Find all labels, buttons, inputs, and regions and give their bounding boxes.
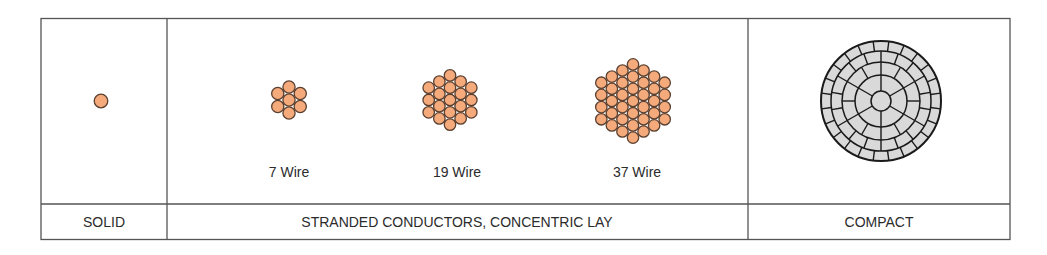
wire-strand-icon [606,83,617,94]
wire-strand-icon [294,100,306,112]
wire-strand-icon [627,108,638,119]
wire-strand-icon [627,132,638,143]
conductor-types-diagram: 7 Wire 19 Wire 37 Wire SOLID STRANDED CO… [0,0,1047,255]
wire-strand-icon [659,114,670,125]
wire-strand-icon [596,89,607,100]
wire-strand-icon [283,94,295,106]
wire-strand-icon [434,100,446,112]
seven-wire-label: 7 Wire [269,164,310,180]
wire-strand-icon [617,126,628,137]
wire-strand-icon [606,71,617,82]
wire-strand-icon [455,113,467,125]
wire-strand-icon [596,114,607,125]
wire-strand-icon [423,107,435,119]
nineteen-wire-strand-icon [423,70,477,131]
wire-strand-icon [444,94,456,106]
wire-strand-icon [272,87,284,99]
wire-strand-icon [455,100,467,112]
wire-strand-icon [596,77,607,88]
wire-strand-icon [638,77,649,88]
wire-strand-icon [659,89,670,100]
wire-strand-icon [444,82,456,94]
wire-strand-icon [617,89,628,100]
wire-strand-icon [617,65,628,76]
compact-conductor-icon [821,41,941,161]
wire-strand-icon [606,120,617,131]
wire-strand-icon [659,101,670,112]
wire-strand-icon [638,65,649,76]
wire-strand-icon [648,83,659,94]
wire-strand-icon [627,71,638,82]
wire-strand-icon [659,77,670,88]
wire-strand-icon [434,76,446,88]
wire-strand-icon [617,101,628,112]
wire-strand-icon [434,88,446,100]
wire-strand-icon [444,119,456,131]
stranded-footer-label: STRANDED CONDUCTORS, CONCENTRIC LAY [301,214,613,230]
wire-strand-icon [455,76,467,88]
wire-strand-icon [283,107,295,119]
wire-strand-icon [283,81,295,93]
seven-wire-strand-icon [272,81,307,119]
wire-strand-icon [648,95,659,106]
wire-strand-icon [648,120,659,131]
wire-strand-icon [466,94,478,106]
wire-strand-icon [648,71,659,82]
wire-strand-icon [606,108,617,119]
thirty-seven-wire-strand-icon [596,59,671,144]
compact-footer-label: COMPACT [845,214,914,230]
wire-strand-icon [638,126,649,137]
wire-strand-icon [606,95,617,106]
wire-strand-icon [294,87,306,99]
wire-strand-icon [272,100,284,112]
wire-strand-icon [423,94,435,106]
wire-strand-icon [638,89,649,100]
wire-strand-icon [423,82,435,94]
wire-strand-icon [617,114,628,125]
wire-strand-icon [596,101,607,112]
nineteen-wire-label: 19 Wire [433,164,481,180]
wire-strand-icon [444,107,456,119]
wire-strand-icon [627,120,638,131]
wire-strand-icon [466,82,478,94]
wire-strand-icon [455,88,467,100]
wire-strand-icon [638,101,649,112]
wire-strand-icon [434,113,446,125]
wire-strand-icon [627,83,638,94]
solid-footer-label: SOLID [83,214,125,230]
wire-strand-icon [617,77,628,88]
wire-strand-icon [627,95,638,106]
solid-conductor-icon [94,94,108,108]
wire-strand-icon [466,107,478,119]
wire-strand-icon [648,108,659,119]
wire-strand-icon [627,59,638,70]
wire-strand-icon [638,114,649,125]
thirty-seven-wire-label: 37 Wire [613,164,661,180]
wire-strand-icon [444,70,456,82]
